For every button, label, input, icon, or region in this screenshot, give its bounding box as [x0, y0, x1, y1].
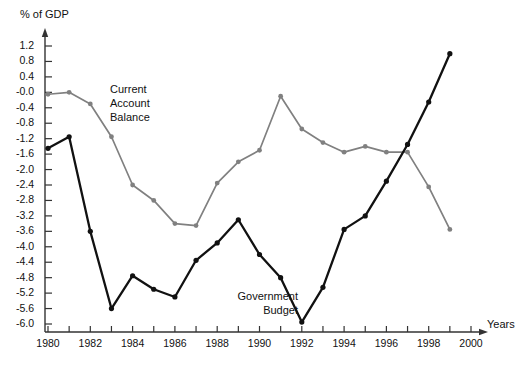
data-point: [151, 198, 156, 203]
data-point: [67, 134, 72, 139]
y-tick-label: -5.6: [4, 302, 34, 314]
x-tick-label: 1998: [409, 337, 449, 349]
data-point: [215, 181, 220, 186]
y-tick-label: -1.2: [4, 132, 34, 144]
y-tick-label: 0.4: [4, 70, 34, 82]
y-tick-label: 0.8: [4, 54, 34, 66]
data-point: [88, 229, 93, 234]
data-point: [278, 275, 283, 280]
data-point: [278, 94, 283, 99]
data-point: [130, 273, 135, 278]
data-point: [384, 150, 389, 155]
data-point: [215, 240, 220, 245]
series-government-budget: [45, 51, 452, 325]
series-line: [48, 54, 450, 322]
data-point: [67, 90, 72, 95]
y-tick-label: -0.0: [4, 85, 34, 97]
y-tick-label: -2.0: [4, 163, 34, 175]
data-point: [342, 227, 347, 232]
data-point: [447, 227, 452, 232]
x-tick-label: 1992: [282, 337, 322, 349]
data-point: [46, 92, 51, 97]
x-tick-label: 1982: [70, 337, 110, 349]
data-point: [172, 294, 177, 299]
data-point: [426, 185, 431, 190]
series-current-account-balance: [46, 90, 453, 232]
y-axis-arrowhead: [42, 28, 48, 37]
y-tick-label: -2.8: [4, 193, 34, 205]
data-point: [363, 144, 368, 149]
series-line: [48, 92, 450, 229]
data-point: [405, 142, 410, 147]
data-point: [405, 150, 410, 155]
y-tick-label: -0.8: [4, 116, 34, 128]
data-series-layer: [45, 51, 452, 325]
data-point: [447, 51, 452, 56]
data-point: [384, 179, 389, 184]
data-point: [193, 258, 198, 263]
y-tick-label: -4.4: [4, 255, 34, 267]
data-point: [299, 319, 304, 324]
data-point: [236, 159, 241, 164]
x-tick-label: 1986: [155, 337, 195, 349]
data-point: [321, 140, 326, 145]
data-point: [426, 99, 431, 104]
axis-layer: [42, 28, 488, 335]
data-point: [109, 306, 114, 311]
data-point: [173, 221, 178, 226]
x-tick-label: 1994: [324, 337, 364, 349]
y-tick-label: -6.0: [4, 317, 34, 329]
data-point: [342, 150, 347, 155]
y-tick-label: 1.2: [4, 39, 34, 51]
x-tick-label: 1996: [366, 337, 406, 349]
data-point: [45, 146, 50, 151]
plot-area: [0, 0, 526, 370]
chart-container: % of GDP Years Current Account Balance G…: [0, 0, 526, 370]
data-point: [236, 217, 241, 222]
data-point: [130, 183, 135, 188]
x-tick-label: 1980: [28, 337, 68, 349]
y-tick-label: -0.4: [4, 101, 34, 113]
data-point: [257, 148, 262, 153]
data-point: [363, 213, 368, 218]
data-point: [257, 252, 262, 257]
x-axis-arrowhead: [479, 329, 488, 335]
data-point: [320, 285, 325, 290]
data-point: [109, 134, 114, 139]
data-point: [151, 287, 156, 292]
data-point: [88, 102, 93, 107]
y-tick-label: -1.6: [4, 147, 34, 159]
y-tick-label: -3.6: [4, 224, 34, 236]
x-tick-label: 1990: [240, 337, 280, 349]
y-tick-label: -3.2: [4, 209, 34, 221]
data-point: [299, 127, 304, 132]
y-tick-label: -5.2: [4, 286, 34, 298]
y-tick-label: -2.4: [4, 178, 34, 190]
data-point: [194, 223, 199, 228]
x-tick-label: 1988: [197, 337, 237, 349]
y-tick-label: -4.8: [4, 271, 34, 283]
x-tick-label: 2000: [451, 337, 491, 349]
x-tick-label: 1984: [113, 337, 153, 349]
tick-marks-layer: [45, 46, 471, 332]
y-tick-label: -4.0: [4, 240, 34, 252]
